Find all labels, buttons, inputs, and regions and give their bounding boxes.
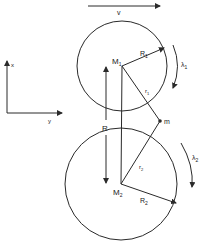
lower-radius-line (121, 184, 176, 203)
distance-r2-label: r2 (139, 164, 144, 172)
distance-r1-line (122, 66, 160, 121)
upper-center-label: M1 (112, 57, 122, 67)
separation-label: R (102, 124, 108, 133)
coordinate-axes (7, 61, 62, 113)
lower-spin-label: λ2 (192, 154, 199, 163)
upper-spin-arrow (173, 45, 178, 88)
upper-spin-label: λ1 (181, 61, 188, 70)
velocity-label: v (117, 9, 121, 16)
center-connector-line (121, 66, 122, 184)
distance-r1-label: r1 (145, 88, 150, 96)
lower-radius-label: R2 (140, 197, 148, 206)
axis-y-label: y (48, 118, 51, 124)
test-mass-point (158, 119, 162, 123)
lower-spin-arrow (181, 143, 192, 187)
axis-x-label: x (11, 62, 14, 68)
distance-r2-line (121, 121, 160, 184)
test-mass-label: m (164, 118, 170, 125)
two-body-diagram: v x y M1 R1 λ1 M2 R2 λ2 r1 r2 R m (0, 0, 202, 242)
lower-center-label: M2 (113, 188, 123, 198)
